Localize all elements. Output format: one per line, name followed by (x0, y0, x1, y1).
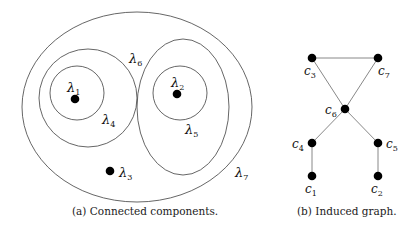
region-lambda5 (137, 39, 229, 175)
edge-c7-c6 (345, 58, 378, 109)
label-lambda1: λ1 (66, 80, 80, 97)
node-c4 (308, 139, 317, 148)
edge-c3-c6 (312, 58, 345, 109)
label-lambda2: λ2 (170, 75, 184, 92)
induced-graph-figure (312, 58, 378, 176)
label-c6: c6 (325, 103, 337, 119)
label-lambda6: λ6 (128, 51, 142, 68)
node-c7 (374, 54, 383, 63)
node-c5 (374, 139, 383, 148)
node-c3 (308, 54, 317, 63)
label-c2: c2 (371, 182, 383, 198)
region-lambda6 (39, 49, 137, 147)
label-c1: c1 (305, 182, 317, 198)
node-c2 (374, 172, 383, 181)
point-lambda3 (106, 167, 115, 176)
label-c7: c7 (378, 64, 390, 80)
node-c6 (341, 105, 350, 114)
caption-connected-components: (a) Connected components. (72, 205, 218, 217)
connected-components-figure (22, 12, 252, 202)
label-c5: c5 (386, 137, 398, 153)
label-c3: c3 (304, 64, 316, 80)
label-lambda4: λ4 (101, 112, 115, 129)
diagram-canvas: λ1 λ2 λ3 λ4 λ5 λ6 λ7 c3 c7 c6 c4 c5 c1 c… (0, 0, 413, 231)
label-c4: c4 (292, 137, 304, 153)
label-lambda5: λ5 (184, 122, 198, 139)
edge-c6-c5 (345, 109, 378, 143)
node-c1 (308, 172, 317, 181)
caption-induced-graph: (b) Induced graph. (297, 205, 397, 217)
label-lambda7: λ7 (234, 165, 248, 182)
label-lambda3: λ3 (118, 165, 132, 182)
